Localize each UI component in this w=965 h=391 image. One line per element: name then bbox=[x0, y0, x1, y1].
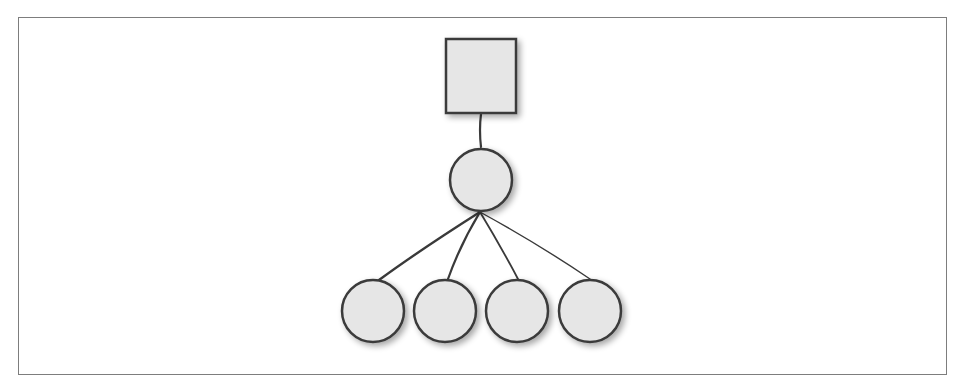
leaf-node-circle-3 bbox=[486, 280, 548, 342]
root-node-square bbox=[446, 39, 516, 113]
middle-node-circle bbox=[450, 149, 512, 211]
edge-middle-leaf-4 bbox=[480, 212, 590, 279]
tree-diagram bbox=[0, 0, 965, 391]
edge-root-middle bbox=[480, 114, 481, 147]
edge-middle-leaf-1 bbox=[379, 212, 480, 280]
leaf-node-circle-1 bbox=[342, 280, 404, 342]
leaf-node-circle-2 bbox=[414, 280, 476, 342]
leaf-node-circle-4 bbox=[559, 280, 621, 342]
